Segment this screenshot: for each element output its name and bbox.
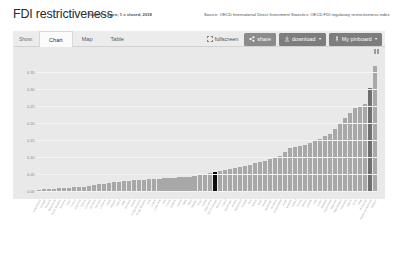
bar[interactable] [333,129,337,191]
pinboard-label: My pinboard [342,36,372,42]
bar[interactable] [353,108,357,191]
bar[interactable] [182,177,186,191]
bar[interactable] [238,167,242,191]
bar[interactable] [208,173,212,191]
toolbar-actions: fullscreen share [204,33,382,46]
bar[interactable] [343,118,347,191]
bar[interactable] [132,180,136,191]
pinboard-button[interactable]: My pinboard ▾ [329,33,382,46]
download-label: download [292,36,315,42]
bar[interactable] [102,184,106,191]
bar[interactable] [303,145,307,191]
x-axis-tick: Algeria [348,199,352,200]
x-axis-tick: Malaysia [323,199,327,200]
bar[interactable] [152,179,156,191]
bar[interactable] [228,169,232,191]
x-axis-tick: Croatia [152,199,156,200]
share-label: share [257,36,271,42]
bar[interactable] [172,178,176,192]
download-button[interactable]: download ▾ [279,33,326,46]
bar[interactable] [122,181,126,191]
bar[interactable] [308,143,312,191]
bar[interactable] [358,106,362,191]
tab-map[interactable]: Map [73,31,102,47]
bar[interactable] [127,181,131,191]
x-axis-tick: Netherlands [52,199,56,200]
bar[interactable] [313,141,317,191]
x-axis-tick: Egypt [187,199,191,200]
gridline: 0.15 [37,140,377,141]
bar[interactable] [323,136,327,191]
x-axis-tick: Colombia [87,199,91,200]
bar[interactable] [243,166,247,191]
gridline: 0.05 [37,174,377,175]
page-subtitle: Total, 0 = open; 1 = closed, 2018 [88,12,152,17]
bar[interactable] [248,165,252,191]
x-axis-tick: Ireland [117,199,121,200]
x-axis-tick: Lebanon [373,199,377,200]
show-label: Show: [19,36,33,42]
bar[interactable] [318,139,322,191]
y-axis-tick: 0.25 [27,104,35,109]
bar[interactable] [198,175,202,191]
bar[interactable] [117,182,121,191]
bar[interactable] [107,183,111,191]
bar[interactable] [373,66,377,191]
bar[interactable] [328,134,332,191]
x-axis-tick: Switzerland [238,199,242,200]
x-axis-tick: Greece [132,199,136,200]
bar[interactable] [162,178,166,191]
bar[interactable] [298,146,302,191]
bar[interactable] [187,177,191,192]
tab-chart[interactable]: Chart [39,31,73,47]
bar[interactable] [293,147,297,191]
fullscreen-button[interactable]: fullscreen [204,33,242,46]
bar[interactable] [253,163,257,191]
bar[interactable] [283,152,287,191]
gridline: 0.00 [37,191,377,192]
chart-toolbar: Show: Chart Map Table fullscreen [13,31,385,47]
x-axis-tick: Belgium [112,199,116,200]
bar[interactable] [142,180,146,191]
x-axis-tick: Philippines [363,199,367,200]
bar[interactable] [213,172,217,191]
bar[interactable] [288,148,292,191]
x-axis-tick: Canada [308,199,312,200]
y-axis-tick: 0.10 [27,155,35,160]
bar[interactable] [147,179,151,191]
bar[interactable] [203,174,207,191]
y-axis-tick: 0.30 [27,87,35,92]
source-note: Source: OECD International Direct Invest… [204,12,390,17]
x-axis-tick: Czech Republic [57,199,61,200]
x-axis-tick: Peru [248,199,252,200]
x-axis-tick: OECD average [213,199,217,200]
bar[interactable] [177,177,181,191]
gridline: 0.10 [37,157,377,158]
x-axis-tick: Kyrgyzstan [268,199,272,200]
x-axis-tick: New Zealand [338,199,342,200]
bar[interactable] [112,182,116,191]
x-axis-labels: LuxembourgPortugalSloveniaNetherlandsCze… [13,199,385,249]
x-axis-tick: Saudi Arabia [328,199,332,200]
bar[interactable] [97,184,101,191]
bar[interactable] [363,104,367,191]
bar[interactable] [258,162,262,191]
bar[interactable] [348,113,352,191]
x-axis-tick: Iceland [293,199,297,200]
chevron-down-icon: ▾ [375,37,377,41]
bar[interactable] [263,161,267,191]
x-axis-tick: Norway [243,199,247,200]
y-axis-tick: 0.35 [27,70,35,75]
bar[interactable] [233,168,237,191]
x-axis-tick: China [353,199,357,200]
share-icon [249,36,255,42]
x-axis-tick: Poland [223,199,227,200]
tab-table[interactable]: Table [102,31,133,47]
bar[interactable] [192,176,196,191]
bar[interactable] [137,180,141,191]
share-button[interactable]: share [244,33,276,46]
bar[interactable] [157,179,161,191]
x-axis-tick: Australia [288,199,292,200]
bar[interactable] [167,178,171,191]
bar[interactable] [223,170,227,191]
